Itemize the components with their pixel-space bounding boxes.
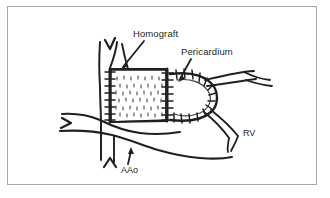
right-vessel-strands <box>204 71 272 152</box>
leader-aao <box>128 147 134 164</box>
figure-root: Homograft Pericardium AAo RV <box>0 0 330 198</box>
leader-pericardium <box>178 59 191 82</box>
label-rv: RV <box>243 128 255 138</box>
label-pericardium: Pericardium <box>181 46 233 57</box>
surgical-illustration: Homograft Pericardium AAo RV <box>0 0 330 198</box>
label-aao: AAo <box>121 165 138 175</box>
homograft-conduit <box>105 69 173 122</box>
label-homograft: Homograft <box>133 28 179 39</box>
pericardium-hood <box>170 69 217 123</box>
